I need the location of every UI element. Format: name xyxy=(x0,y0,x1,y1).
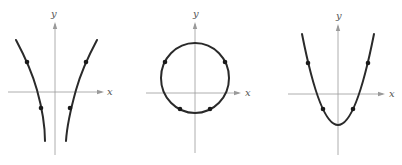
right-branch-curve xyxy=(66,40,97,141)
y-axis xyxy=(53,22,57,155)
point-marker xyxy=(306,61,311,66)
point-marker xyxy=(163,60,168,65)
x-axis xyxy=(8,90,104,94)
y-axis xyxy=(336,24,340,155)
left-branch-curve xyxy=(16,40,45,141)
point-marker xyxy=(351,107,356,112)
point-marker xyxy=(68,106,73,111)
point-marker xyxy=(366,61,371,66)
x-axis-label: x xyxy=(107,86,113,97)
y-axis-label: y xyxy=(50,8,57,19)
point-marker xyxy=(25,60,30,65)
point-marker xyxy=(321,107,326,112)
figure-canvas: x y x y x xyxy=(0,0,402,165)
y-axis xyxy=(193,22,197,153)
point-marker xyxy=(223,60,228,65)
y-axis-label: y xyxy=(335,10,342,21)
point-marker xyxy=(178,107,183,112)
point-marker xyxy=(84,60,89,65)
point-marker xyxy=(208,107,213,112)
graph-1: x y xyxy=(8,8,113,155)
graph-3: x y xyxy=(288,10,395,155)
x-axis-label: x xyxy=(245,87,251,98)
x-axis-label: x xyxy=(389,88,395,99)
graph-2: x y xyxy=(146,8,251,153)
y-axis-label: y xyxy=(192,8,199,19)
x-axis xyxy=(288,92,385,96)
point-marker xyxy=(39,106,44,111)
